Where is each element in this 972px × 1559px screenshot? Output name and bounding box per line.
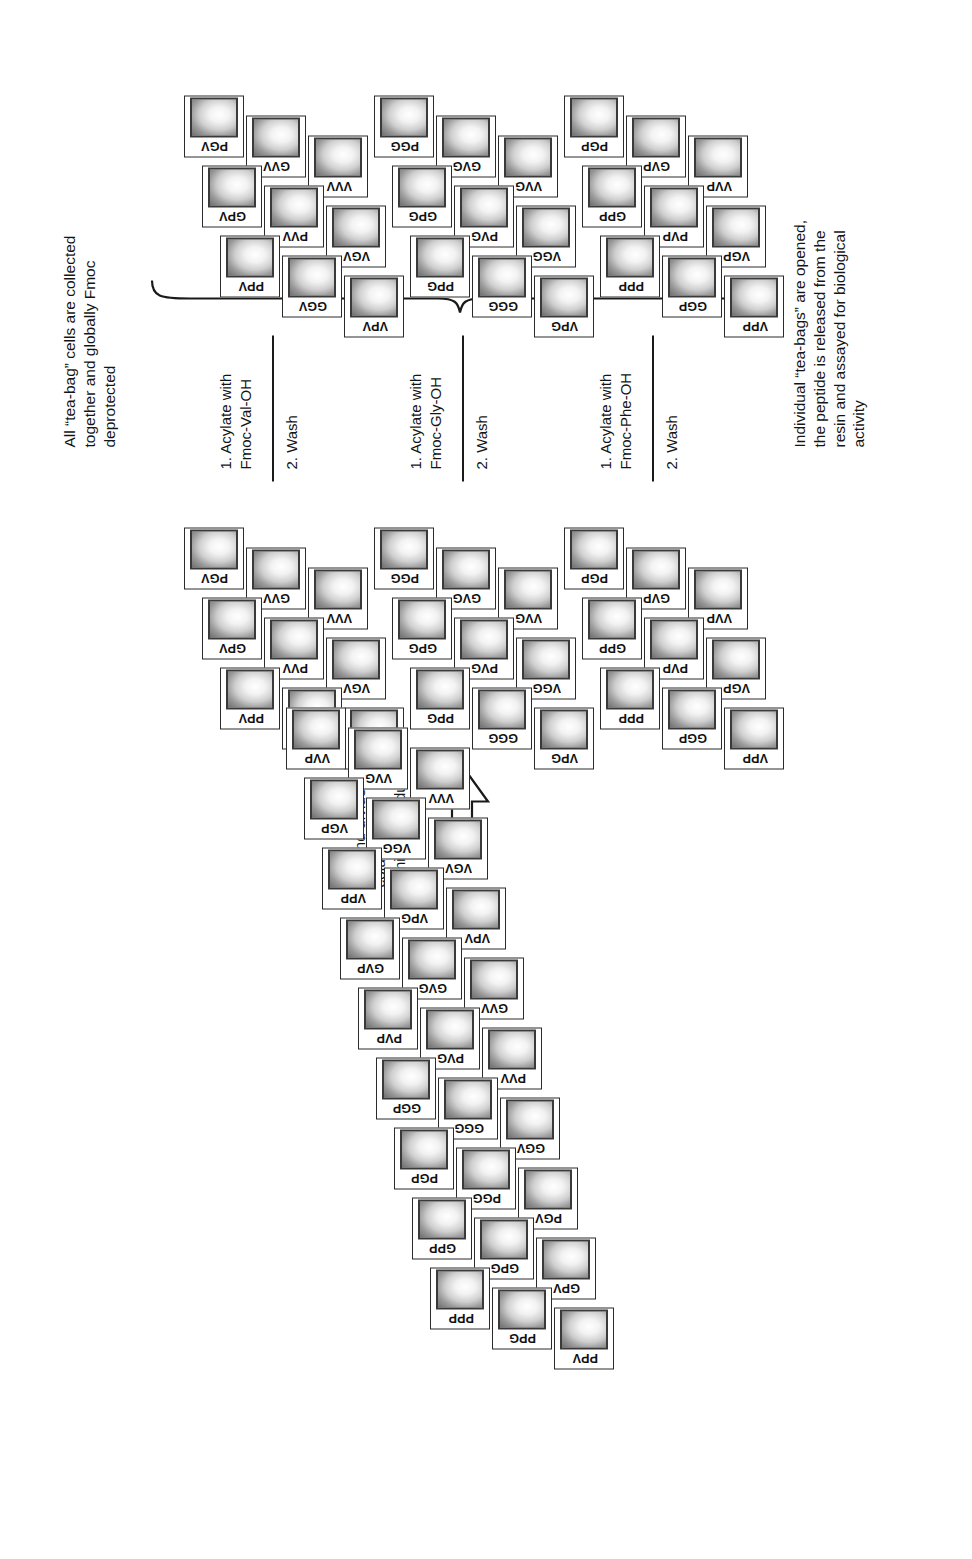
tea-bag-cell: GPV [202, 597, 262, 659]
tea-bag-icon [522, 207, 570, 247]
tea-bag-label: GVP [341, 959, 401, 976]
tea-bag-label: PGG [375, 137, 435, 154]
tea-bag-icon [226, 237, 274, 277]
tea-bag-icon [650, 187, 698, 227]
tea-bag-icon [730, 277, 778, 317]
tea-bag-cell: VVP [286, 707, 346, 769]
tea-bag-label: PPG [493, 1329, 553, 1346]
tea-bag-label: PPV [555, 1349, 615, 1366]
tea-bag-cell: VPP [724, 707, 784, 769]
tea-bag-icon [488, 1029, 536, 1069]
middle-grid-column-g: PPGGPGPGGGGGPVGGVGVPGVGGVVG [370, 499, 570, 729]
tea-bag-label: VPP [323, 889, 383, 906]
assay-label: Individual “tea-bags” are opened, the pe… [790, 117, 869, 447]
tea-bag-icon [398, 599, 446, 639]
tea-bag-label: GPG [393, 207, 453, 224]
tea-bag-label: PVP [359, 1029, 419, 1046]
tea-bag-cell: PPP [600, 235, 660, 297]
tea-bag-icon [380, 529, 428, 569]
tea-bag-icon [570, 97, 618, 137]
tea-bag-icon [588, 167, 636, 207]
tea-bag-cell: GPP [582, 597, 642, 659]
step-1-line2: Fmoc-Gly-OH [426, 299, 445, 469]
tea-bag-icon [442, 117, 490, 157]
tea-bag-label: PGP [565, 569, 625, 586]
tea-bag-cell: PPV [220, 235, 280, 297]
tea-bag-label: PPG [411, 709, 471, 726]
tea-bag-label: PPV [221, 277, 281, 294]
tea-bag-icon [694, 569, 742, 609]
tea-bag-cell: PVP [358, 987, 418, 1049]
source-combined-grid: PPPGPPPGPGGPPVPGVPVPPVGPVVPPPGGPGPGGGGGP… [250, 879, 680, 1519]
tea-bag-icon [444, 1079, 492, 1119]
tea-bag-icon [542, 1239, 590, 1279]
tea-bag-icon [480, 1219, 528, 1259]
tea-bag-cell: GGP [662, 255, 722, 317]
tea-bag-icon [650, 619, 698, 659]
middle-grid-column-p: PPPGPPPGPGGPPVPGVPVPPVGPVVP [560, 499, 760, 729]
tea-bag-icon [416, 749, 464, 789]
step-0-line2: Fmoc-Phe-OH [616, 299, 635, 469]
tea-bag-label: PGG [375, 569, 435, 586]
tea-bag-label: GPP [583, 207, 643, 224]
tea-bag-icon [478, 257, 526, 297]
tea-bag-icon [398, 167, 446, 207]
tea-bag-icon [332, 207, 380, 247]
tea-bag-cell: PPG [410, 235, 470, 297]
tea-bag-label: VVP [287, 749, 347, 766]
tea-bag-icon [310, 779, 358, 819]
tea-bag-icon [460, 187, 508, 227]
tea-bag-icon [354, 729, 402, 769]
tea-bag-icon [668, 689, 716, 729]
tea-bag-icon [694, 137, 742, 177]
step-0-line3: 2. Wash [662, 299, 681, 469]
tea-bag-icon [498, 1289, 546, 1329]
tea-bag-label: PGP [565, 137, 625, 154]
tea-bag-icon [712, 639, 760, 679]
tea-bag-label: PPP [601, 277, 661, 294]
tea-bag-label: GPP [413, 1239, 473, 1256]
tea-bag-icon [730, 709, 778, 749]
tea-bag-icon [400, 1129, 448, 1169]
tea-bag-cell: PPV [220, 667, 280, 729]
tea-bag-icon [460, 619, 508, 659]
tea-bag-icon [314, 137, 362, 177]
tea-bag-cell: GGV [282, 255, 342, 317]
tea-bag-icon [288, 257, 336, 297]
step-2-line1: 1. Acylate with [216, 299, 235, 469]
tea-bag-icon [416, 237, 464, 277]
tea-bag-label: VPP [725, 317, 785, 334]
tea-bag-icon [470, 959, 518, 999]
tea-bag-icon [606, 237, 654, 277]
tea-bag-icon [524, 1169, 572, 1209]
reaction-arrow-1-line [462, 335, 464, 481]
tea-bag-icon [462, 1149, 510, 1189]
tea-bag-label: GGP [663, 729, 723, 746]
middle-grid-column-v: PPVGPVPGVGGVPVVGVVVPVVGVVVV [180, 499, 380, 729]
tea-bag-icon [270, 187, 318, 227]
tea-bag-icon [190, 97, 238, 137]
tea-bag-cell: GGG [472, 687, 532, 749]
step-2-line2: Fmoc-Val-OH [236, 299, 255, 469]
tea-bag-icon [478, 689, 526, 729]
tea-bag-icon [560, 1309, 608, 1349]
tea-bag-label: GPP [583, 639, 643, 656]
tea-bag-icon [252, 549, 300, 589]
figure-canvas: PPPGPPPGPGGPPVPGVPVPPVGPVVPPPGGPGPGGGGGP… [0, 0, 972, 1559]
tea-bag-icon [606, 669, 654, 709]
tea-bag-icon [416, 669, 464, 709]
tea-bag-icon [252, 117, 300, 157]
tea-bag-label: GPG [393, 639, 453, 656]
tea-bag-cell: PGP [564, 527, 624, 589]
tea-bag-label: PGV [185, 137, 245, 154]
tea-bag-cell: VGP [304, 777, 364, 839]
tea-bag-icon [632, 549, 680, 589]
tea-bag-cell: GPP [582, 165, 642, 227]
tea-bag-label: PPG [411, 277, 471, 294]
collect-deprotect-label: All “tea-bag” cells are collected togeth… [60, 117, 119, 447]
tea-bag-icon [436, 1269, 484, 1309]
tea-bag-icon [668, 257, 716, 297]
step-1-line3: 2. Wash [472, 299, 491, 469]
reaction-arrow-2-line [272, 335, 274, 481]
result-grid-product-p: PPPGPPPGPGGPPVPGVPVPPVGPVVP [560, 67, 760, 297]
